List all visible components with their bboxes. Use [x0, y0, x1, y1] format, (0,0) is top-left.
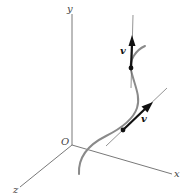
axes [20, 14, 172, 187]
lower-velocity-label: v [141, 113, 147, 124]
space-curve [79, 46, 145, 174]
velocity-tangent-diagram: y x z O v v [0, 0, 186, 196]
z-axis [20, 145, 72, 187]
x-axis-label: x [174, 168, 180, 179]
z-axis-label: z [12, 184, 19, 195]
origin-label: O [61, 136, 69, 147]
arrowhead-icon [129, 35, 136, 46]
y-axis-label: y [66, 3, 73, 14]
upper-point [129, 66, 134, 71]
upper-velocity-vector [129, 35, 136, 70]
upper-velocity-label: v [120, 45, 126, 56]
lower-point [121, 128, 126, 133]
